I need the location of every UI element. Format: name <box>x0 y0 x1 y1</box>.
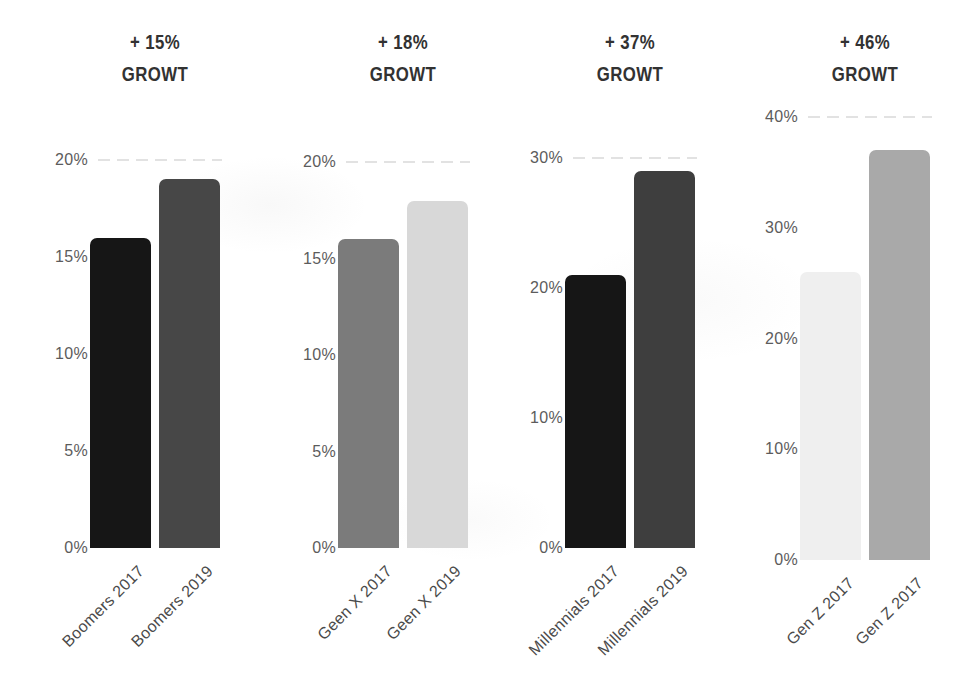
bar <box>565 275 626 548</box>
x-axis-label: Boomers 2019 <box>90 562 216 688</box>
bar <box>338 239 399 548</box>
y-tick-label: 10% <box>730 439 798 459</box>
chart-panel-gen-x: + 18%GROWT20%15%10%5%0%Geen X 2017Geen X… <box>268 0 498 689</box>
y-tick-label: 20% <box>20 150 88 170</box>
y-tick-label: 20% <box>730 329 798 349</box>
x-axis-label: Gen Z 2017 <box>800 574 926 689</box>
bar <box>869 150 930 560</box>
bar <box>800 272 861 560</box>
panel-title-boomers: + 15%GROWT <box>60 26 250 90</box>
y-tick-label: 5% <box>20 441 88 461</box>
x-axis-label: Millennials 2017 <box>496 562 622 688</box>
bar <box>159 179 220 548</box>
y-tick-label: 15% <box>20 247 88 267</box>
panel-title-millennials: + 37%GROWT <box>535 26 725 90</box>
panel-title-gen-x: + 18%GROWT <box>308 26 498 90</box>
y-tick-label: 0% <box>20 538 88 558</box>
y-tick-label: 40% <box>730 107 798 127</box>
growth-word-label: GROWT <box>554 58 706 90</box>
growth-word-label: GROWT <box>79 58 231 90</box>
chart-panel-boomers: + 15%GROWT20%15%10%5%0%Boomers 2017Boome… <box>20 0 250 689</box>
y-tick-label: 5% <box>268 442 336 462</box>
growth-percent-label: + 15% <box>79 26 231 58</box>
growth-word-label: GROWT <box>789 58 941 90</box>
x-axis-label: Geen X 2017 <box>269 562 395 688</box>
x-axis-label: Geen X 2019 <box>338 562 464 688</box>
bar <box>407 201 468 548</box>
y-tick-label: 0% <box>268 538 336 558</box>
top-tick-gridline <box>98 159 222 161</box>
growth-percent-label: + 18% <box>327 26 479 58</box>
bar <box>90 238 151 548</box>
x-axis-label: Boomers 2017 <box>21 562 147 688</box>
growth-percent-label: + 46% <box>789 26 941 58</box>
y-tick-label: 10% <box>495 408 563 428</box>
y-tick-label: 10% <box>268 345 336 365</box>
y-tick-label: 0% <box>730 550 798 570</box>
y-tick-label: 20% <box>268 152 336 172</box>
y-tick-label: 30% <box>730 218 798 238</box>
growth-percent-label: + 37% <box>554 26 706 58</box>
top-tick-gridline <box>808 116 932 118</box>
y-tick-label: 30% <box>495 148 563 168</box>
y-tick-label: 0% <box>495 538 563 558</box>
y-tick-label: 20% <box>495 278 563 298</box>
panel-title-gen-z: + 46%GROWT <box>770 26 960 90</box>
bar <box>634 171 695 548</box>
y-tick-label: 10% <box>20 344 88 364</box>
chart-panel-gen-z: + 46%GROWT40%30%20%10%0%Gen Z 2017Gen Z … <box>730 0 960 689</box>
growth-word-label: GROWT <box>327 58 479 90</box>
x-axis-label: Millennials 2019 <box>565 562 691 688</box>
y-tick-label: 15% <box>268 249 336 269</box>
top-tick-gridline <box>573 157 697 159</box>
top-tick-gridline <box>346 161 470 163</box>
chart-panel-millennials: + 37%GROWT30%20%10%0%Millennials 2017Mil… <box>495 0 725 689</box>
growth-charts-canvas: + 15%GROWT20%15%10%5%0%Boomers 2017Boome… <box>0 0 970 689</box>
